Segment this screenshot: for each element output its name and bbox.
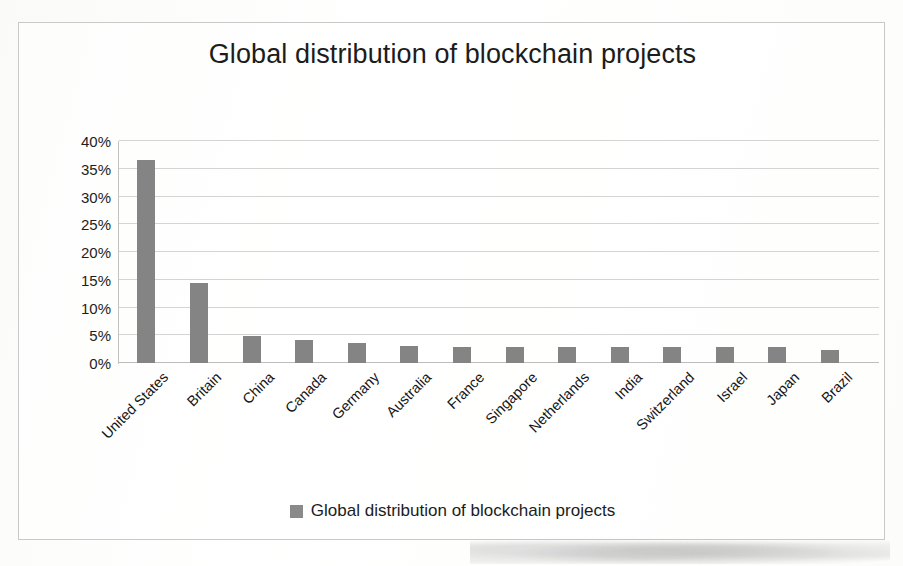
y-axis-tick-label: 30% bbox=[53, 188, 111, 205]
bar bbox=[716, 347, 734, 363]
bar bbox=[190, 283, 208, 363]
bar bbox=[295, 340, 313, 363]
x-axis-category-label: United States bbox=[99, 369, 172, 442]
y-axis-tick-label: 10% bbox=[53, 299, 111, 316]
bar bbox=[821, 350, 839, 363]
x-axis-category-label: Brazil bbox=[818, 369, 855, 406]
bar bbox=[348, 343, 366, 363]
bar bbox=[611, 347, 629, 363]
bar bbox=[768, 347, 786, 363]
bar bbox=[506, 347, 524, 363]
scanned-page-background: Global distribution of blockchain projec… bbox=[0, 0, 903, 566]
y-axis-tick-label: 35% bbox=[53, 160, 111, 177]
y-axis-tick-label: 40% bbox=[53, 133, 111, 150]
y-axis-tick-label: 15% bbox=[53, 271, 111, 288]
y-axis-tick-labels: 40%35%30%25%20%15%10%5%0% bbox=[49, 141, 111, 363]
gridline bbox=[119, 196, 879, 197]
gridline bbox=[119, 251, 879, 252]
gridline bbox=[119, 307, 879, 308]
y-axis-tick-label: 25% bbox=[53, 216, 111, 233]
x-axis-category-label: Israel bbox=[714, 369, 750, 405]
gridline bbox=[119, 140, 879, 141]
gridline bbox=[119, 334, 879, 335]
bar bbox=[243, 336, 261, 363]
x-axis-category-label: France bbox=[444, 369, 487, 412]
plot-area bbox=[119, 141, 879, 363]
y-axis-tick-label: 20% bbox=[53, 244, 111, 261]
gridline bbox=[119, 223, 879, 224]
x-axis-category-labels: United StatesBritainChinaCanadaGermanyAu… bbox=[19, 367, 886, 487]
legend-swatch-icon bbox=[290, 505, 303, 518]
bar bbox=[137, 160, 155, 363]
gridline bbox=[119, 168, 879, 169]
chart-legend: Global distribution of blockchain projec… bbox=[19, 501, 886, 521]
chart-frame: Global distribution of blockchain projec… bbox=[18, 22, 885, 540]
x-axis-category-label: Germany bbox=[329, 369, 382, 422]
x-axis-category-label: Britain bbox=[184, 369, 224, 409]
x-axis-category-label: Japan bbox=[764, 369, 803, 408]
y-axis-tick-label: 5% bbox=[53, 327, 111, 344]
x-axis-category-label: Australia bbox=[383, 369, 434, 420]
legend-label: Global distribution of blockchain projec… bbox=[311, 501, 615, 521]
x-axis-category-label: China bbox=[239, 369, 277, 407]
x-axis-category-label: India bbox=[611, 369, 645, 403]
x-axis-category-label: Canada bbox=[282, 369, 329, 416]
bar bbox=[453, 347, 471, 363]
chart-title: Global distribution of blockchain projec… bbox=[19, 39, 886, 70]
bar bbox=[663, 347, 681, 363]
bar bbox=[400, 346, 418, 363]
gridline bbox=[119, 362, 879, 363]
gridline bbox=[119, 279, 879, 280]
bar bbox=[558, 347, 576, 363]
